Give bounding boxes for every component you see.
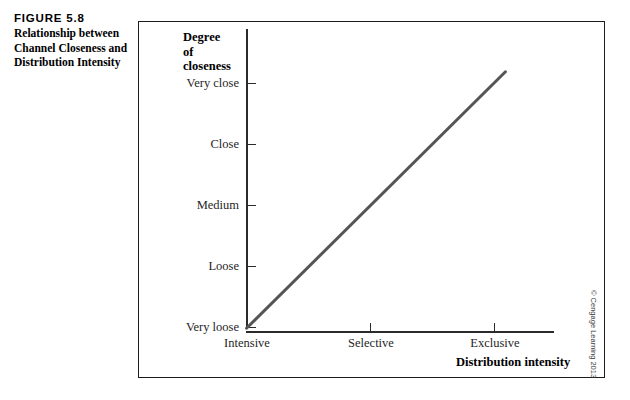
y-tick-label-close: Close: [139, 137, 239, 152]
x-tick-exclusive: [494, 323, 495, 332]
copyright-notice: © Cengage Learning 2013: [589, 290, 598, 378]
x-axis-title: Distribution intensity: [456, 355, 570, 370]
x-tick-label-selective: Selective: [311, 336, 431, 351]
y-tick-very-loose: [247, 327, 256, 328]
x-tick-selective: [370, 323, 371, 332]
y-tick-label-very-close: Very close: [139, 76, 239, 91]
x-tick-label-exclusive: Exclusive: [435, 336, 555, 351]
y-axis-title: Degree of closeness: [183, 30, 247, 74]
y-tick-medium: [247, 205, 256, 206]
y-axis-line: [246, 29, 248, 328]
x-axis-line: [246, 331, 554, 333]
y-tick-close: [247, 144, 256, 145]
figure-frame: Degree of closeness Very close Close Med…: [138, 21, 605, 378]
y-tick-label-medium: Medium: [139, 198, 239, 213]
y-tick-label-loose: Loose: [139, 259, 239, 274]
chart-plot-area: Degree of closeness Very close Close Med…: [139, 22, 604, 377]
y-axis-title-line-2: of: [183, 45, 247, 60]
x-tick-label-intensive: Intensive: [187, 336, 307, 351]
y-tick-very-close: [247, 83, 256, 84]
figure-number: FIGURE 5.8: [14, 12, 132, 24]
figure-caption: FIGURE 5.8 Relationship between Channel …: [14, 12, 132, 70]
y-tick-loose: [247, 266, 256, 267]
y-axis-title-line-3: closeness: [183, 59, 247, 74]
y-tick-label-very-loose: Very loose: [139, 320, 239, 335]
figure-title: Relationship between Channel Closeness a…: [14, 26, 132, 70]
y-axis-title-line-1: Degree: [183, 30, 247, 45]
